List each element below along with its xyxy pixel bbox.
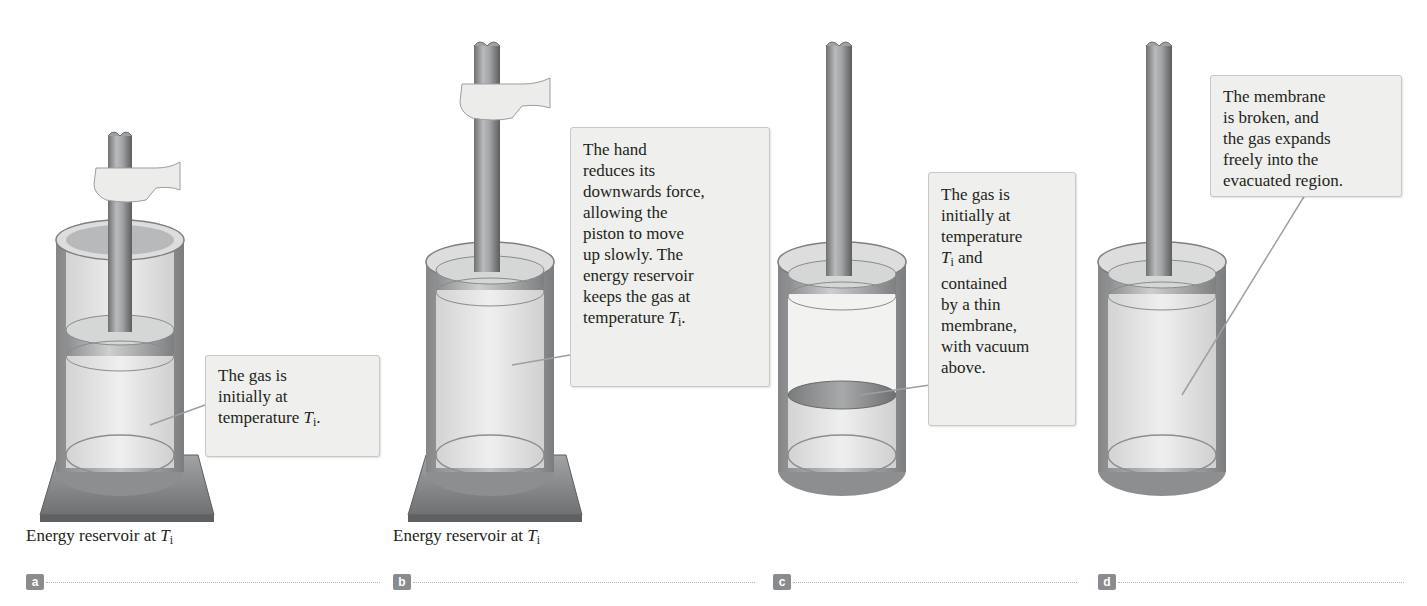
callout-panel-b: The hand reduces its downwards force, al… [570, 127, 770, 387]
caption-panel-b: Energy reservoir at Ti [393, 526, 540, 548]
panel-label-a: a [26, 574, 44, 590]
hand-icon-a [94, 162, 180, 202]
callout-a-line-1: The gas is [218, 365, 369, 386]
callout-c-line-8: with vacuum [941, 336, 1065, 357]
panel-a-apparatus [40, 132, 214, 522]
callout-c-line-3: temperature [941, 226, 1065, 247]
callout-b-line-7: energy reservoir [583, 265, 759, 286]
piston-rod-d [1146, 46, 1172, 276]
hand-icon-b [460, 78, 550, 120]
callout-d-line-1: The membrane [1223, 86, 1391, 107]
gas-d [1108, 268, 1216, 468]
membrane-c [788, 381, 896, 409]
panel-label-c: c [773, 574, 791, 590]
callout-c-line-9: above. [941, 357, 1065, 378]
callout-b-line-5: piston to move [583, 223, 759, 244]
callout-b-line-4: allowing the [583, 202, 759, 223]
callout-d-line-4: freely into the [1223, 149, 1391, 170]
panel-b-apparatus [408, 42, 582, 522]
divider-d [1118, 582, 1404, 583]
callout-c-line-5: contained [941, 273, 1065, 294]
callout-c-line-4: Ti and [941, 247, 1065, 273]
callout-b-line-9: temperature Ti. [583, 307, 759, 333]
callout-b-line-6: up slowly. The [583, 244, 759, 265]
callout-d-line-5: evacuated region. [1223, 170, 1391, 191]
callout-panel-c: The gas is initially at temperature Ti a… [928, 172, 1076, 426]
piston-rod-b [474, 46, 500, 272]
callout-c-line-6: by a thin [941, 294, 1065, 315]
callout-b-line-3: downwards force, [583, 181, 759, 202]
callout-panel-a: The gas is initially at temperature Ti. [205, 355, 380, 457]
callout-c-line-7: membrane, [941, 315, 1065, 336]
divider-a [46, 582, 380, 583]
piston-rod-a [108, 136, 132, 332]
callout-d-line-3: the gas expands [1223, 128, 1391, 149]
divider-c [793, 582, 1077, 583]
callout-a-line-3: temperature Ti. [218, 407, 369, 433]
panel-label-b: b [393, 574, 411, 590]
panel-d-apparatus [1098, 42, 1226, 496]
callout-a-line-2: initially at [218, 386, 369, 407]
caption-panel-a: Energy reservoir at Ti [26, 526, 173, 548]
callout-d-line-2: is broken, and [1223, 107, 1391, 128]
callout-b-line-1: The hand [583, 139, 759, 160]
gas-b [436, 268, 544, 468]
callout-panel-d: The membrane is broken, and the gas expa… [1210, 75, 1402, 197]
panel-c-apparatus [778, 42, 906, 496]
callout-c-line-1: The gas is [941, 184, 1065, 205]
piston-rod-c [826, 46, 852, 276]
divider-b [413, 582, 755, 583]
callout-b-line-8: keeps the gas at [583, 286, 759, 307]
callout-b-line-2: reduces its [583, 160, 759, 181]
callout-c-line-2: initially at [941, 205, 1065, 226]
panel-label-d: d [1098, 574, 1116, 590]
